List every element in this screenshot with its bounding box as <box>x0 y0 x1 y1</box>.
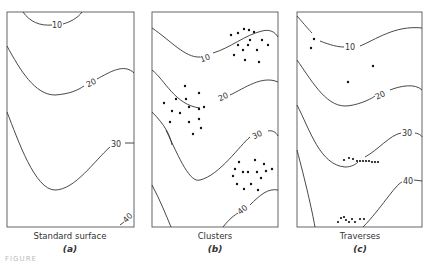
contour-20-a-right <box>97 69 134 79</box>
traverse-points-scattered <box>310 38 374 83</box>
contour-40-b-right <box>250 190 278 205</box>
contour-40-c <box>363 182 402 227</box>
cluster-points-middle <box>163 85 205 135</box>
contour-label-20: 20 <box>85 77 98 89</box>
figure-caption-fragment: FIGURE <box>5 255 37 263</box>
contour-20-c <box>297 60 375 106</box>
contour-40-c-left <box>297 150 315 227</box>
contour-40-b-left <box>152 185 171 227</box>
contour-30-b-right <box>268 131 278 136</box>
panel-b-frame <box>152 12 278 227</box>
contour-label-20: 20 <box>374 89 387 101</box>
contour-label-40: 40 <box>403 177 413 186</box>
contour-20-c-right <box>390 86 422 90</box>
contour-20-a <box>7 46 84 95</box>
contour-10-b-right <box>213 30 278 53</box>
contour-30-c-right <box>415 133 422 137</box>
contour-10-c-left <box>297 16 312 33</box>
panel-b-clusters: 10 20 30 40 <box>152 12 278 227</box>
contour-40-b <box>223 213 238 227</box>
contour-label-40: 40 <box>236 203 250 216</box>
contour-label-30: 30 <box>402 129 412 138</box>
panel-a-standard-surface: 10 20 30 40 <box>7 12 135 227</box>
contour-30-c-mid <box>365 133 401 157</box>
contour-30-a <box>7 112 110 190</box>
contour-20-b-right <box>230 80 278 95</box>
contour-30-b-left <box>152 112 172 145</box>
contour-40-c-right <box>414 180 422 181</box>
panel-a-letter: (a) <box>0 244 140 254</box>
panel-c-traverses: 10 20 30 40 <box>297 12 422 227</box>
panel-b-letter: (b) <box>145 244 285 254</box>
contour-10-c <box>320 41 344 47</box>
panel-a-title: Standard surface <box>0 231 140 241</box>
contour-10-b <box>152 28 200 57</box>
traverse-points-line-upper <box>343 157 379 163</box>
contour-30-b <box>166 130 250 180</box>
panel-c-letter: (c) <box>290 244 430 254</box>
contour-label-30: 30 <box>251 129 264 141</box>
contour-label-20: 20 <box>217 91 230 103</box>
cluster-points-lower <box>232 159 273 191</box>
panel-a-frame <box>7 12 134 227</box>
panel-c-title: Traverses <box>290 231 430 241</box>
cluster-points-upper <box>230 28 269 63</box>
contour-label-10: 10 <box>345 43 355 52</box>
panel-c-frame <box>297 12 422 227</box>
panel-b-title: Clusters <box>145 231 285 241</box>
contour-10-a-right <box>63 12 82 24</box>
traverse-points-line-lower <box>337 216 365 223</box>
contour-label-10: 10 <box>199 52 212 64</box>
contour-label-30: 30 <box>111 140 121 149</box>
contour-label-10: 10 <box>52 21 62 30</box>
contour-20-b <box>152 70 200 108</box>
contour-10-c-right <box>360 28 422 46</box>
contour-40-a <box>120 222 124 225</box>
contour-10-a <box>23 12 52 25</box>
